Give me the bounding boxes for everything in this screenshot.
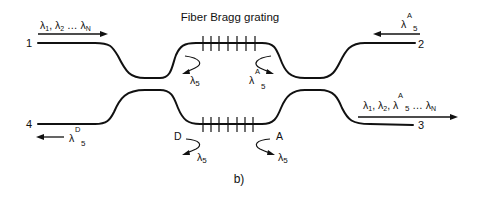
fbg-add-drop-diagram: Fiber Bragg grating 1 2 3 4 λ1, λ2 … λN: [0, 0, 482, 199]
curved-arrow-icon: [182, 69, 190, 74]
svg-text:λ1, λ2 … λN: λ1, λ2 … λN: [40, 19, 91, 32]
curved-arrow-icon: [267, 150, 275, 155]
bottom-right-reflection: A λ5: [256, 130, 288, 165]
svg-text:λ A 5: λ A 5: [401, 8, 418, 33]
port-3-label: 3: [418, 119, 424, 131]
curved-arrow-icon: [182, 150, 190, 155]
grating-title: Fiber Bragg grating: [181, 11, 279, 23]
svg-text:λ5: λ5: [197, 151, 207, 165]
svg-text:λ1, λ2, λ A 5 … λ: λ1, λ2, λ A 5 … λN: [363, 88, 436, 113]
svg-text:λ5: λ5: [278, 151, 288, 165]
svg-text:λ5: λ5: [190, 74, 200, 88]
svg-text:A: A: [276, 130, 283, 142]
top-left-reflection: λ5: [182, 56, 200, 88]
port-4-signal: λ D 5: [36, 122, 86, 148]
bottom-grating: [203, 117, 253, 132]
port-2-label: 2: [418, 38, 424, 50]
port-1-label: 1: [26, 37, 32, 49]
port-2-signal: λ A 5: [373, 8, 420, 37]
svg-text:λ D 5: λ D 5: [69, 122, 86, 148]
svg-text:λ A 5: λ A 5: [249, 64, 266, 91]
figure-caption: b): [234, 172, 245, 186]
top-fiber: [38, 43, 415, 78]
bottom-left-reflection: D λ5: [174, 130, 207, 165]
bottom-fiber: [38, 90, 413, 125]
top-right-reflection: λ A 5: [249, 56, 274, 91]
port-1-signal: λ1, λ2 … λN: [38, 19, 108, 37]
port-3-signal: λ1, λ2, λ A 5 … λN: [358, 88, 458, 120]
port-4-label: 4: [26, 118, 32, 130]
svg-text:D: D: [174, 130, 182, 142]
curved-arrow-icon: [266, 69, 274, 74]
